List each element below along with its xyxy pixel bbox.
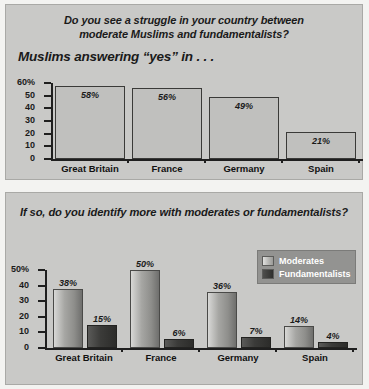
y-tick-label-20: 20 — [25, 128, 35, 138]
question-line-1: Do you see a struggle in your country be… — [6, 13, 362, 27]
bar-chart-yes-responses: 0 10 20 30 40 50 60% — [51, 83, 361, 159]
y-tick-40: 40 — [44, 107, 51, 109]
bar-fundamentalists-france: 6% — [164, 339, 194, 348]
bar-moderates-france: 50% — [130, 270, 160, 348]
y-tick-50: 50% — [38, 269, 45, 271]
bar-value-fundamentalists-france: 6% — [172, 328, 185, 338]
x-label-france: France — [151, 163, 182, 174]
y-tick-10: 10 — [38, 331, 45, 333]
y-tick-60: 60% — [44, 82, 51, 84]
x-tick-minor-1 — [127, 160, 129, 163]
legend-label-fundamentalists: Fundamentalists — [279, 269, 351, 279]
bar-value-great-britain: 58% — [81, 90, 99, 100]
bar-value-moderates-france: 50% — [136, 259, 154, 269]
x-label-great-britain: Great Britain — [55, 352, 113, 363]
bar-fundamentalists-germany: 7% — [241, 337, 271, 348]
y-axis-line — [51, 83, 53, 159]
y-tick-label-10: 10 — [25, 140, 35, 150]
y-tick-label-60: 60% — [17, 77, 35, 87]
x-tick-minor-3 — [281, 160, 283, 163]
y-tick-50: 50 — [44, 95, 51, 97]
y-tick-label-10: 10 — [19, 326, 29, 336]
x-label-spain: Spain — [308, 163, 334, 174]
bar-value-france: 56% — [158, 92, 176, 102]
y-tick-label-0: 0 — [24, 342, 29, 352]
y-tick-label-50: 50% — [11, 264, 29, 274]
y-tick-0: 0 — [44, 158, 51, 160]
x-tick-minor-1 — [121, 349, 123, 352]
y-tick-label-30: 30 — [19, 295, 29, 305]
bar-value-germany: 49% — [235, 101, 253, 111]
x-label-france: France — [145, 352, 176, 363]
bar-france: 56% — [132, 88, 202, 159]
bar-value-fundamentalists-great-britain: 15% — [93, 314, 111, 324]
legend-item-moderates: Moderates — [262, 254, 351, 267]
legend-item-fundamentalists: Fundamentalists — [262, 267, 351, 280]
x-axis-line — [45, 348, 357, 350]
x-label-great-britain: Great Britain — [61, 163, 119, 174]
y-tick-label-20: 20 — [19, 311, 29, 321]
bar-value-spain: 21% — [312, 136, 330, 146]
y-tick-20: 20 — [38, 316, 45, 318]
y-tick-40: 40 — [38, 285, 45, 287]
chart-legend: Moderates Fundamentalists — [257, 250, 356, 284]
y-tick-10: 10 — [44, 145, 51, 147]
figure-canvas: Do you see a struggle in your country be… — [0, 0, 369, 389]
bar-value-fundamentalists-germany: 7% — [249, 326, 262, 336]
y-tick-label-50: 50 — [25, 90, 35, 100]
bar-moderates-spain: 14% — [284, 326, 314, 348]
legend-label-moderates: Moderates — [279, 256, 324, 266]
x-label-germany: Germany — [217, 352, 258, 363]
x-tick-minor-3 — [275, 349, 277, 352]
y-tick-0: 0 — [38, 347, 45, 349]
bar-value-moderates-great-britain: 38% — [59, 278, 77, 288]
bar-value-fundamentalists-spain: 4% — [326, 331, 339, 341]
bar-value-moderates-germany: 36% — [213, 281, 231, 291]
y-tick-30: 30 — [38, 300, 45, 302]
y-tick-label-30: 30 — [25, 115, 35, 125]
bar-value-moderates-spain: 14% — [290, 315, 308, 325]
y-tick-label-40: 40 — [25, 102, 35, 112]
x-tick-minor-2 — [204, 160, 206, 163]
chart-panel-struggle: Do you see a struggle in your country be… — [5, 4, 363, 180]
chart-subtitle: Muslims answering “yes” in . . . — [18, 49, 214, 64]
question-identify: If so, do you identify more with moderat… — [6, 205, 362, 219]
bar-great-britain: 58% — [55, 86, 125, 160]
y-tick-20: 20 — [44, 133, 51, 135]
y-axis-line — [45, 270, 47, 348]
bar-fundamentalists-great-britain: 15% — [87, 325, 117, 348]
bar-moderates-germany: 36% — [207, 292, 237, 348]
x-label-spain: Spain — [302, 352, 328, 363]
bar-moderates-great-britain: 38% — [53, 289, 83, 348]
x-label-germany: Germany — [223, 163, 264, 174]
y-tick-label-0: 0 — [30, 153, 35, 163]
bar-germany: 49% — [209, 97, 279, 159]
x-tick-minor-2 — [198, 349, 200, 352]
bar-fundamentalists-spain: 4% — [318, 342, 348, 348]
x-tick-minor-4 — [358, 160, 360, 163]
question-line-2: moderate Muslims and fundamentalists? — [6, 27, 362, 41]
y-tick-30: 30 — [44, 120, 51, 122]
legend-swatch-fundamentalists-icon — [262, 269, 274, 279]
x-tick-minor-4 — [352, 349, 354, 352]
x-axis-line — [51, 159, 363, 161]
bar-spain: 21% — [286, 132, 356, 159]
y-tick-label-40: 40 — [19, 280, 29, 290]
legend-swatch-moderates-icon — [262, 256, 274, 266]
